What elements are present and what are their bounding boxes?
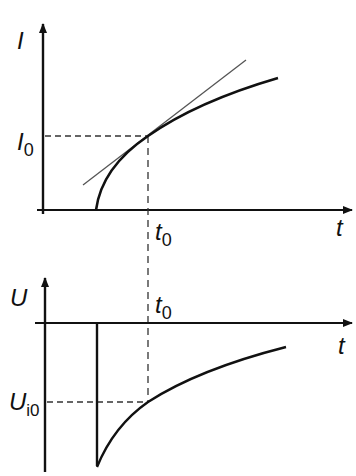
ui0-label: Ui0	[9, 388, 40, 420]
ui0-label-main: U	[9, 388, 27, 415]
bottom-x-axis-label: t	[338, 332, 346, 359]
diagram: I t I0 t0 U t Ui0 t0	[0, 0, 356, 476]
i0-label: I0	[17, 128, 34, 160]
bottom-y-axis-label: U	[10, 284, 28, 311]
i0-label-subscript: 0	[24, 140, 34, 160]
t0-top-label: t0	[155, 218, 172, 250]
t0-bottom-label: t0	[155, 291, 172, 323]
t0-top-label-subscript: 0	[162, 230, 172, 250]
current-curve	[96, 78, 278, 210]
voltage-curve	[97, 347, 286, 467]
t0-bottom-label-subscript: 0	[162, 303, 172, 323]
top-x-axis-label: t	[336, 214, 344, 241]
tangent-line	[83, 60, 246, 185]
top-y-axis-label: I	[17, 27, 24, 54]
bottom-plot: U t Ui0 t0	[9, 278, 352, 472]
ui0-label-subscript: i0	[26, 401, 39, 420]
top-plot: I t I0 t0	[17, 24, 352, 403]
